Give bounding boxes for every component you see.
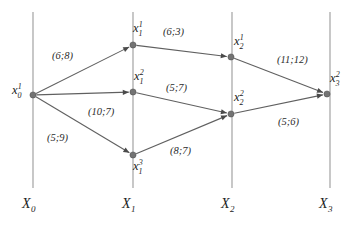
arrowhead-icon (317, 88, 324, 93)
axis-label-x0: X0 (22, 197, 35, 211)
weight-label-e4: (6;3) (163, 27, 184, 38)
node-x1_1 (130, 42, 136, 48)
layer-guide-lines (33, 12, 330, 188)
node-x0_1 (30, 92, 36, 98)
edge-x0_1-to-x1_1 (36, 47, 129, 94)
node-label-x0_1: x10 (12, 84, 21, 97)
node-x1_3 (130, 152, 136, 158)
arrowhead-icon (221, 53, 227, 58)
node-label-x1_2: x21 (134, 70, 143, 83)
axis-label-x1: X1 (122, 197, 135, 211)
weight-label-e6: (8;7) (170, 146, 191, 157)
weight-label-e7: (11;12) (277, 55, 308, 66)
arrowhead-icon (220, 109, 226, 114)
weight-label-e5: (5;7) (166, 83, 187, 94)
node-label-x1_1: x11 (133, 22, 142, 35)
node-x3_2 (324, 91, 330, 97)
node-label-x3_2: x23 (330, 72, 339, 85)
arrowhead-icon (123, 148, 129, 153)
edge-x1_2-to-x2_2 (136, 93, 227, 113)
edge-x0_1-to-x1_3 (36, 97, 129, 153)
weight-label-e8: (5;6) (278, 117, 299, 128)
node-x2_2 (228, 111, 234, 117)
node-x1_2 (130, 89, 136, 95)
node-label-x2_2: x22 (234, 91, 243, 104)
axis-label-x3: X3 (319, 197, 332, 211)
node-x2_1 (228, 54, 234, 60)
arrowhead-icon (316, 94, 322, 99)
node-label-x2_1: x12 (234, 35, 243, 48)
weight-label-e2: (10;7) (88, 107, 114, 118)
edge-x0_1-to-x1_2 (36, 92, 128, 95)
arrowhead-icon (123, 90, 129, 95)
edge-x1_1-to-x2_1 (136, 45, 226, 56)
node-label-x1_3: x31 (133, 160, 142, 173)
edge-x2_2-to-x3_2 (234, 95, 323, 113)
network-diagram: x10x11x21x31x12x22x23 (6;8)(10;7)(5;9)(6… (0, 0, 363, 228)
weight-label-e1: (6;8) (52, 51, 73, 62)
axis-label-x2: X2 (221, 197, 234, 211)
weight-label-e3: (5;9) (47, 133, 68, 144)
